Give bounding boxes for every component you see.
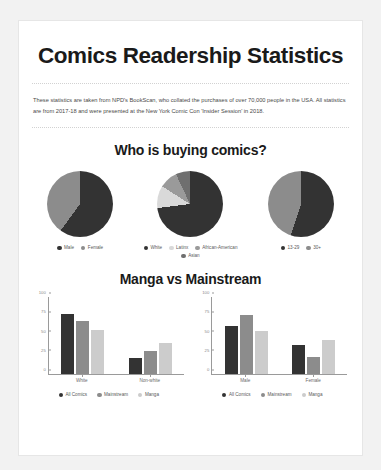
legend-swatch-icon xyxy=(222,393,226,397)
legend-label: Manga xyxy=(145,392,159,397)
pie-chart-age: 13-2930+ xyxy=(248,171,354,250)
y-axis-tick: 50 xyxy=(205,328,213,333)
legend-label: Male xyxy=(64,245,74,250)
legend-swatch-icon xyxy=(81,246,85,250)
y-axis-tick: 25 xyxy=(205,347,213,352)
legend-swatch-icon xyxy=(195,246,199,250)
legend-item: 30+ xyxy=(306,245,321,250)
bar xyxy=(61,314,74,374)
y-axis-tick: 100 xyxy=(202,290,212,295)
y-axis-tick: 100 xyxy=(39,290,49,295)
infographic-page: Comics Readership Statistics These stati… xyxy=(0,0,381,470)
legend-label: All Comics xyxy=(65,392,87,397)
y-axis-tick: 75 xyxy=(41,309,49,314)
bar xyxy=(292,345,305,374)
pie-chart-ethnicity: WhiteLatinxAfrican-AmericanAsian xyxy=(137,171,243,258)
legend-label: Mainstream xyxy=(268,392,292,397)
legend-label: 13-29 xyxy=(288,245,300,250)
bar xyxy=(76,321,89,374)
section-heading-bars: Manga vs Mainstream xyxy=(19,271,362,287)
bar xyxy=(322,340,335,374)
bar-groups xyxy=(49,297,184,374)
legend-item: Asian xyxy=(181,253,199,258)
pie-chart-row: MaleFemale WhiteLatinxAfrican-AmericanAs… xyxy=(19,171,362,258)
x-axis-label: Male xyxy=(223,378,268,383)
legend-item: Manga xyxy=(302,392,323,397)
bar-chart-ethnicity: 1007550250 WhiteNon-white All ComicsMain… xyxy=(34,297,184,397)
legend-swatch-icon xyxy=(302,393,306,397)
legend-swatch-icon xyxy=(97,393,101,397)
bar xyxy=(307,357,320,374)
bar xyxy=(255,331,268,374)
bar xyxy=(225,326,238,375)
legend-swatch-icon xyxy=(57,246,61,250)
bar-chart-row: 1007550250 WhiteNon-white All ComicsMain… xyxy=(19,297,362,397)
legend-swatch-icon xyxy=(138,393,142,397)
legend-item: Latinx xyxy=(169,245,188,250)
legend-label: White xyxy=(150,245,162,250)
pie-age-graphic xyxy=(268,171,334,237)
legend-item: All Comics xyxy=(59,392,88,397)
legend-item: 13-29 xyxy=(281,245,300,250)
pie-gender-graphic xyxy=(47,171,113,237)
bar-ethnicity-legend: All ComicsMainstreamManga xyxy=(34,392,184,397)
bar-gender-legend: All ComicsMainstreamManga xyxy=(197,392,347,397)
bar xyxy=(159,343,172,374)
legend-swatch-icon xyxy=(306,246,310,250)
legend-item: Manga xyxy=(138,392,159,397)
x-axis-label: Female xyxy=(291,378,336,383)
legend-label: All Comics xyxy=(229,392,251,397)
legend-label: Female xyxy=(88,245,103,250)
legend-swatch-icon xyxy=(59,393,63,397)
bar xyxy=(240,315,253,374)
pie-ethnicity-graphic xyxy=(157,171,223,237)
bar-group xyxy=(225,297,268,374)
bar-groups xyxy=(212,297,347,374)
bar-group xyxy=(129,297,172,374)
x-axis-label: White xyxy=(59,378,104,383)
divider-top xyxy=(32,83,349,84)
legend-label: Mainstream xyxy=(104,392,128,397)
legend-swatch-icon xyxy=(181,254,185,258)
bar xyxy=(91,330,104,375)
legend-item: Mainstream xyxy=(97,392,128,397)
legend-swatch-icon xyxy=(261,393,265,397)
bar-ethnicity-xaxis: WhiteNon-white xyxy=(48,378,184,383)
page-title: Comics Readership Statistics xyxy=(19,21,362,69)
bar xyxy=(129,358,142,374)
pie-gender-legend: MaleFemale xyxy=(28,245,132,250)
x-axis-label: Non-white xyxy=(127,378,172,383)
legend-swatch-icon xyxy=(281,246,285,250)
legend-label: Manga xyxy=(308,392,322,397)
legend-label: Asian xyxy=(188,253,200,258)
bar-gender-plot: 1007550250 xyxy=(211,297,347,375)
legend-label: 30+ xyxy=(313,245,321,250)
bar xyxy=(144,351,157,374)
content-card: Comics Readership Statistics These stati… xyxy=(18,20,363,456)
legend-item: Female xyxy=(81,245,103,250)
intro-paragraph: These statistics are taken from NPD's Bo… xyxy=(33,95,348,117)
bar-group xyxy=(292,297,335,374)
legend-label: African-American xyxy=(202,245,237,250)
pie-age-legend: 13-2930+ xyxy=(249,245,353,250)
legend-swatch-icon xyxy=(144,246,148,250)
bar-ethnicity-plot: 1007550250 xyxy=(48,297,184,375)
bar-gender-xaxis: MaleFemale xyxy=(211,378,347,383)
section-heading-pies: Who is buying comics? xyxy=(19,142,362,158)
pie-ethnicity-legend: WhiteLatinxAfrican-AmericanAsian xyxy=(138,245,242,258)
divider-intro xyxy=(32,127,349,128)
bar-group xyxy=(61,297,104,374)
pie-chart-gender: MaleFemale xyxy=(27,171,133,250)
bar-chart-gender: 1007550250 MaleFemale All ComicsMainstre… xyxy=(197,297,347,397)
y-axis-tick: 25 xyxy=(41,347,49,352)
y-axis-tick: 75 xyxy=(205,309,213,314)
legend-item: Male xyxy=(57,245,74,250)
legend-item: White xyxy=(144,245,163,250)
legend-item: Mainstream xyxy=(261,392,292,397)
y-axis-tick: 50 xyxy=(41,328,49,333)
legend-label: Latinx xyxy=(176,245,188,250)
legend-item: African-American xyxy=(195,245,237,250)
legend-swatch-icon xyxy=(169,246,173,250)
legend-item: All Comics xyxy=(222,392,251,397)
